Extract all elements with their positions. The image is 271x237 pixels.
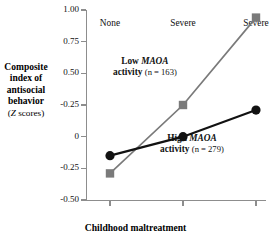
low-maoa-activity-word: activity: [113, 67, 145, 77]
series-label-high-maoa: High MAOA activity (n = 279): [160, 133, 224, 155]
data-point-low-maoa: [106, 169, 114, 177]
series-label-high-maoa-line-1: High MAOA: [160, 133, 224, 144]
data-point-high-maoa: [251, 105, 260, 114]
x-axis-title: Childhood maltreatment: [0, 222, 271, 233]
y-axis-title-line-3: antisocial: [0, 85, 52, 96]
plot-area: 1.000.750.50-0.250-0.25-0.50 NoneSevereS…: [86, 10, 266, 200]
y-axis-tick-label: 0: [39, 131, 79, 141]
y-axis-tick-label: 0.75: [39, 36, 79, 46]
y-axis-tick-label: -0.25: [39, 99, 79, 109]
high-maoa-prefix: High: [167, 133, 189, 143]
x-axis-tick: [255, 200, 256, 206]
low-maoa-n-count: (n = 163): [145, 67, 177, 77]
x-axis-tick: [182, 200, 183, 206]
series-label-low-maoa-line-1: Low MAOA: [113, 56, 177, 67]
data-point-high-maoa: [105, 151, 114, 160]
high-maoa-gene: MAOA: [189, 133, 216, 143]
series-label-low-maoa-line-2: activity (n = 163): [113, 67, 177, 78]
y-axis-title-scores-text: scores): [16, 108, 44, 118]
low-maoa-gene: MAOA: [141, 56, 168, 66]
x-axis-tick: [109, 200, 110, 206]
data-point-low-maoa: [179, 101, 187, 109]
high-maoa-n-count: (n = 279): [192, 144, 224, 154]
low-maoa-prefix: Low: [121, 56, 141, 66]
y-axis-tick-label: 1.00: [39, 4, 79, 14]
x-axis-line: [86, 200, 266, 201]
chart-container: Composite index of antisocial behavior (…: [0, 0, 271, 237]
y-axis-tick-label: -0.50: [39, 194, 79, 204]
high-maoa-activity-word: activity: [160, 144, 192, 154]
series-label-high-maoa-line-2: activity (n = 279): [160, 144, 224, 155]
y-axis-title-line-5: (Z scores): [0, 108, 52, 119]
data-point-low-maoa: [252, 13, 260, 21]
y-axis-tick-label: -0.25: [39, 162, 79, 172]
series-plot: [86, 10, 266, 200]
series-label-low-maoa: Low MAOA activity (n = 163): [113, 56, 177, 78]
y-axis-tick-label: 0.50: [39, 67, 79, 77]
